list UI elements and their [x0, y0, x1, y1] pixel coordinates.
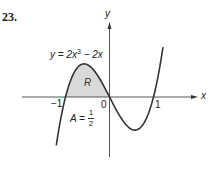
equation-label: y = 2x3 − 2x: [50, 48, 103, 60]
tick-label-one: 1: [155, 100, 161, 110]
x-axis-label: x: [201, 91, 206, 101]
fraction-denominator: 2: [89, 120, 93, 128]
area-fraction: 1 2: [88, 109, 94, 128]
x-axis-arrow-icon: [191, 95, 198, 99]
y-axis-arrow-icon: [108, 22, 112, 29]
y-axis-label: y: [105, 9, 110, 19]
graph: [0, 0, 215, 181]
area-prefix: A =: [70, 114, 85, 124]
region-label: R: [84, 78, 91, 88]
problem-number: 23.: [2, 11, 17, 23]
fraction-numerator: 1: [89, 109, 93, 117]
tick-label-zero: 0: [101, 100, 107, 110]
tick-label-neg-one: −1: [51, 99, 62, 109]
